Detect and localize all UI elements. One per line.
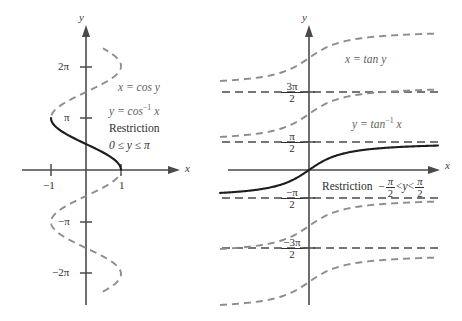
right-restriction-note: Restriction −π2<y<π2 [322, 176, 425, 199]
tan-relation-label: x = tan y [345, 54, 386, 66]
arccos-inverse-label: y = cos−1 x [109, 104, 159, 117]
right-restriction-upper-fraction: π2 [415, 176, 424, 199]
right-y-tick-label-0: 3π2 [281, 81, 303, 104]
arctan-inverse-label: y = tan−1 x [352, 117, 402, 130]
right-y-tick-label-3: −3π2 [281, 237, 303, 260]
left-restriction-word: Restriction [109, 123, 159, 135]
left-x-tick-label-0: −1 [43, 180, 55, 191]
graph-vector-layer [0, 0, 462, 321]
left-y-tick-label-1: π [64, 112, 70, 123]
right-y-tick-denominator-3: 2 [281, 249, 303, 260]
right-y-axis-arrowhead [305, 25, 313, 37]
arctan-inverse-exponent: −1 [385, 116, 393, 125]
right-x-axis-label: x [445, 160, 450, 171]
left-y-tick-label-0: 2π [58, 61, 69, 72]
right-restriction-upper-den: 2 [415, 188, 424, 199]
right-y-tick-denominator-2: 2 [281, 199, 303, 210]
right-restriction-lt2: < [408, 180, 415, 192]
left-x-tick-label-1: 1 [119, 180, 125, 191]
arccos-inverse-tail: x [154, 105, 159, 117]
figure-canvas: y x 2ππ−π−2π−11 x = cos y y = cos−1 x Re… [0, 0, 462, 321]
left-x-axis-label: x [185, 163, 190, 174]
left-y-tick-label-2: −π [58, 216, 70, 227]
arccos-inverse-exponent: −1 [143, 103, 151, 112]
right-restriction-lower-num: π [386, 176, 395, 188]
left-panel-axes [22, 25, 180, 305]
right-restriction-lower-fraction: π2 [386, 176, 395, 199]
right-restriction-upper-num: π [415, 176, 424, 188]
left-y-axis-arrowhead [82, 25, 90, 37]
right-restriction-word: Restriction [322, 180, 372, 192]
arccos-inverse-lead: y = cos [109, 105, 143, 117]
tan-branch-3 [220, 34, 438, 81]
left-x-axis-arrowhead [168, 166, 180, 174]
tan-branch-2 [220, 90, 438, 137]
right-y-tick-denominator-0: 2 [281, 93, 303, 104]
right-panel-axes [228, 25, 440, 305]
tan-branch-1 [220, 202, 438, 249]
left-restriction-range: 0 ≤ y ≤ π [109, 140, 150, 152]
left-y-tick-label-3: −2π [52, 267, 69, 278]
arctan-inverse-tail: x [397, 118, 402, 130]
right-restriction-lower-den: 2 [386, 188, 395, 199]
right-restriction-minus: − [378, 180, 385, 192]
right-y-tick-label-1: π2 [281, 131, 303, 154]
right-y-axis-label: y [302, 12, 307, 23]
arctan-inverse-lead: y = tan [352, 118, 385, 130]
right-y-tick-label-2: −π2 [281, 187, 303, 210]
tan-branch-0 [220, 258, 438, 305]
right-y-tick-denominator-1: 2 [281, 143, 303, 154]
left-y-axis-label: y [79, 12, 84, 23]
cos-relation-label: x = cos y [118, 82, 160, 94]
right-x-axis-arrowhead [428, 166, 440, 174]
